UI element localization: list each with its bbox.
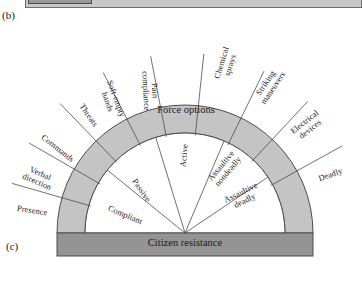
citizen-resistance-base-label: Citizen resistance [57,237,313,248]
force-option-label-pain-compliance: Pain compliance [140,71,159,111]
